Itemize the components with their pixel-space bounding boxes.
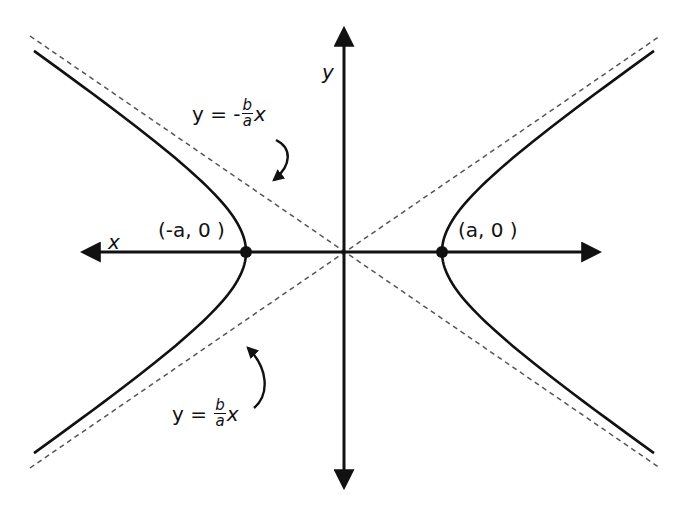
equation-suffix: x [227,402,239,426]
fraction: ba [242,98,254,129]
hyperbola-diagram [0,0,684,507]
vertex-right [436,246,448,258]
fraction-denominator: a [242,113,253,129]
fraction-numerator: b [242,98,254,113]
x-axis-label: x [108,232,120,252]
fraction-numerator: b [214,398,226,413]
pointer-arrow-lower [248,348,265,408]
y-axis-label: y [322,62,334,82]
fraction-denominator: a [214,413,225,429]
vertex-left [240,246,252,258]
equation-suffix: x [254,102,266,126]
fraction: ba [214,398,226,429]
asymptote-negative-label: y = -bax [192,100,266,131]
pointer-arrow-upper [274,140,288,180]
equation-prefix: y = - [192,102,241,126]
asymptote-positive-label: y = bax [172,400,239,431]
vertex-right-label: (a, 0 ) [458,220,518,240]
equation-prefix: y = [172,402,207,426]
vertex-left-label: (-a, 0 ) [158,220,225,240]
